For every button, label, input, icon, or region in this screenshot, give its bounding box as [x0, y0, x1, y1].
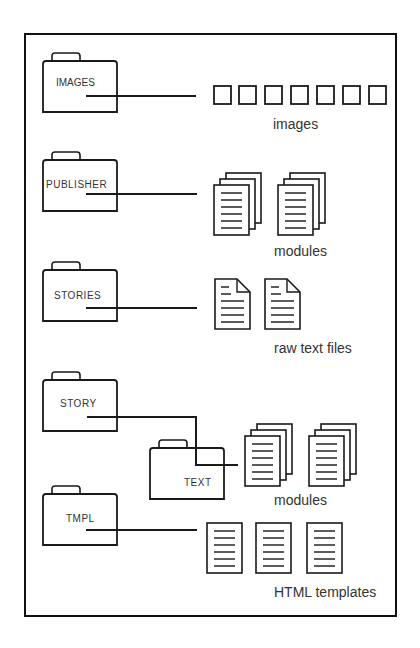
raw-text-file-icon: [215, 279, 250, 329]
folder-label: TMPL: [66, 513, 95, 524]
module-stack-icon: [245, 424, 292, 486]
folder-label: TEXT: [184, 477, 212, 488]
module-stack-icon: [214, 173, 261, 235]
folder-icon: [150, 440, 224, 499]
folder-label: IMAGES: [56, 77, 95, 88]
folder-story: STORY: [43, 372, 117, 431]
raw-text-file-icon: [265, 279, 300, 329]
html-template-icon: [256, 523, 291, 573]
image-square-icon: [343, 86, 360, 104]
module-stack-icon: [278, 173, 325, 235]
caption-raw-text-files: raw text files: [274, 340, 352, 356]
folder-label: PUBLISHER: [46, 179, 107, 190]
caption-text-modules: modules: [274, 492, 327, 508]
folder-label: STORY: [60, 398, 97, 409]
folder-label: STORIES: [54, 290, 101, 301]
image-square-icon: [265, 86, 282, 104]
caption-images: images: [273, 116, 318, 132]
folder-images: IMAGES: [43, 53, 117, 112]
folder-publisher: PUBLISHER: [43, 152, 117, 211]
module-stack-icon: [309, 424, 356, 486]
folder-stories: STORIES: [43, 262, 117, 321]
folder-tmpl: TMPL: [43, 486, 117, 545]
image-square-icon: [214, 86, 231, 104]
caption-publisher-modules: modules: [274, 243, 327, 259]
html-template-icon: [207, 523, 242, 573]
image-square-icon: [317, 86, 334, 104]
image-square-icon: [291, 86, 308, 104]
image-square-icon: [369, 86, 386, 104]
image-square-icon: [239, 86, 256, 104]
image-squares: [214, 86, 386, 104]
folder-text: TEXT: [150, 440, 224, 499]
caption-html-templates: HTML templates: [274, 584, 376, 600]
html-template-icon: [307, 523, 342, 573]
directory-structure-diagram: IMAGES images PUBLISHER modules STORIES …: [0, 0, 420, 648]
